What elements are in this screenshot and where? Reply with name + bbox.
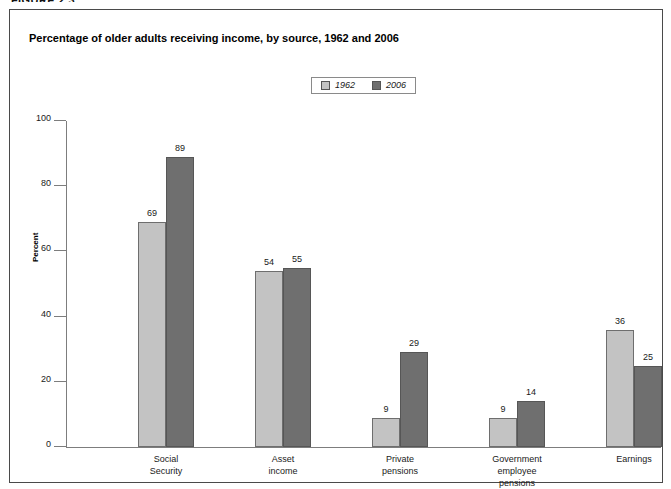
y-tick-60: 60	[54, 250, 66, 251]
x-axis-label: Assetincome	[228, 453, 338, 477]
legend-label-1962: 1962	[335, 81, 355, 90]
bar[interactable]: 36	[606, 330, 634, 447]
y-tick-100: 100	[54, 120, 66, 121]
bar[interactable]: 14	[517, 401, 545, 447]
plot-area: 020406080100 698954559299143625	[66, 121, 653, 447]
y-tick-label-100: 100	[36, 114, 51, 123]
bar[interactable]: 9	[372, 418, 400, 447]
bar-group: 914	[489, 121, 545, 447]
bar-group: 929	[372, 121, 428, 447]
y-tick-80: 80	[54, 185, 66, 186]
bar-value-label: 55	[292, 255, 302, 264]
y-tick-label-60: 60	[41, 244, 51, 253]
bar[interactable]: 69	[138, 222, 166, 447]
bar-value-label: 69	[147, 209, 157, 218]
bar-value-label: 89	[175, 144, 185, 153]
bar[interactable]: 89	[166, 157, 194, 447]
y-tick-20: 20	[54, 381, 66, 382]
figure-number-heading: FIGURE 2.3	[11, 0, 75, 2]
y-tick-label-20: 20	[41, 375, 51, 384]
bar[interactable]: 29	[400, 352, 428, 447]
x-axis-line	[66, 447, 661, 448]
bar[interactable]: 25	[634, 366, 662, 448]
bar-value-label: 29	[409, 339, 419, 348]
x-axis-label: SocialSecurity	[111, 453, 221, 477]
y-tick-40: 40	[54, 316, 66, 317]
x-axis-label: Privatepensions	[345, 453, 455, 477]
bar-group: 3625	[606, 121, 662, 447]
bar-group: 6989	[138, 121, 194, 447]
bar-value-label: 14	[526, 388, 536, 397]
bar[interactable]: 55	[283, 268, 311, 447]
bar-value-label: 9	[383, 405, 388, 414]
bar-value-label: 54	[264, 258, 274, 267]
y-tick-label-40: 40	[41, 310, 51, 319]
chart-title: Percentage of older adults receiving inc…	[29, 32, 399, 44]
bar-value-label: 36	[615, 317, 625, 326]
y-tick-0: 0	[54, 446, 66, 447]
legend-label-2006: 2006	[386, 81, 406, 90]
bar[interactable]: 9	[489, 418, 517, 447]
legend-swatch-1962	[321, 81, 330, 90]
legend-entry-2006: 2006	[372, 81, 406, 90]
y-axis-title: Percent	[31, 233, 40, 262]
chart-legend: 1962 2006	[311, 77, 416, 94]
figure-panel: Percentage of older adults receiving inc…	[9, 9, 663, 483]
x-axis-label: Earnings	[579, 453, 671, 465]
bar[interactable]: 54	[255, 271, 283, 447]
y-tick-label-80: 80	[41, 179, 51, 188]
legend-entry-1962: 1962	[321, 81, 355, 90]
bar-value-label: 25	[643, 353, 653, 362]
bar-value-label: 9	[500, 405, 505, 414]
y-tick-label-0: 0	[46, 440, 51, 449]
x-axis-label: Governmentemployeepensions	[462, 453, 572, 489]
bar-group: 5455	[255, 121, 311, 447]
legend-swatch-2006	[372, 81, 381, 90]
